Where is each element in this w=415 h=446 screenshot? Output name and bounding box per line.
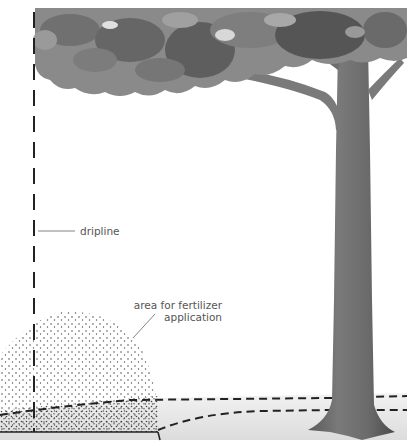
fertilizer-area-label: area for fertilizer application — [134, 299, 222, 323]
tree-illustration — [0, 0, 415, 446]
dripline-label: dripline — [80, 225, 120, 237]
fertilizer-area — [0, 312, 158, 432]
fertilizer-area-label-line1: area for fertilizer — [134, 299, 222, 311]
tree-trunk — [240, 44, 404, 440]
fertilizer-area-label-line2: application — [134, 311, 222, 323]
